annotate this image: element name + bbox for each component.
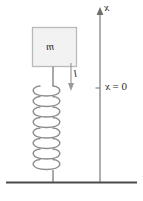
origin-label: 0 = x (105, 81, 127, 92)
length-label: l (74, 68, 77, 79)
mass-label: m (46, 41, 54, 52)
spring-mass-diagram: x m l 0 = x (0, 0, 143, 201)
axis-label: x (104, 2, 109, 13)
origin-label-prefix: 0 = (110, 80, 127, 92)
length-arrow-down-icon (68, 83, 74, 91)
origin-label-variable: x (105, 80, 110, 92)
diagram-canvas (0, 0, 143, 201)
axis-arrow-up-icon (97, 7, 104, 15)
mass-block (33, 28, 77, 67)
helical-spring (33, 86, 60, 170)
